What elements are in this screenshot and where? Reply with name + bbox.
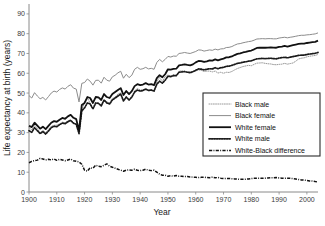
y-tick-label: 40	[17, 109, 25, 116]
x-axis-title: Year	[153, 207, 170, 217]
x-tick-label: 1910	[49, 196, 65, 203]
x-tick-label: 1980	[244, 196, 260, 203]
x-tick-label: 1960	[188, 196, 204, 203]
legend-label-white-female: White female	[235, 124, 276, 131]
x-tick-label: 1990	[271, 196, 287, 203]
x-tick-label: 1940	[132, 196, 148, 203]
y-tick-label: 50	[17, 90, 25, 97]
x-tick-label: 1920	[77, 196, 93, 203]
y-tick-label: 10	[17, 169, 25, 176]
y-tick-label: 30	[17, 129, 25, 136]
x-tick-label: 2000	[299, 196, 315, 203]
x-tick-label: 1900	[21, 196, 37, 203]
y-tick-label: 60	[17, 70, 25, 77]
chart-canvas: 0102030405060708090 19001910192019301940…	[0, 0, 325, 226]
y-tick-label: 80	[17, 30, 25, 37]
legend-label-black-male: Black male	[235, 101, 269, 108]
legend-label-white-male: White male	[235, 135, 270, 142]
y-tick-label: 90	[17, 10, 25, 17]
life-expectancy-chart: 0102030405060708090 19001910192019301940…	[0, 0, 325, 226]
x-tick-label: 1970	[216, 196, 232, 203]
y-tick-label: 70	[17, 50, 25, 57]
y-tick-label: 20	[17, 149, 25, 156]
x-tick-label: 1930	[105, 196, 121, 203]
x-tick-label: 1950	[160, 196, 176, 203]
y-axis-title: Life expectancy at birth (years)	[2, 40, 12, 156]
chart-legend: Black maleBlack femaleWhite femaleWhite …	[203, 93, 320, 156]
legend-label-white-black-difference: White-Black difference	[235, 147, 305, 154]
legend-label-black-female: Black female	[235, 112, 275, 119]
